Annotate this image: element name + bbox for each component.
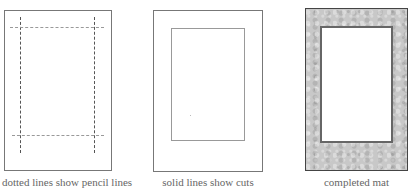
pencil-line-right (94, 17, 95, 153)
pencil-line-left (20, 17, 21, 153)
cut-window-outline (171, 28, 245, 141)
caption-completed: completed mat (305, 176, 408, 188)
pencil-line-bottom (12, 135, 104, 136)
mat-window-opening (320, 26, 393, 143)
pencil-line-top (10, 27, 104, 28)
pencil-mark (190, 115, 191, 116)
caption-pencil-lines: dotted lines show pencil lines (2, 176, 114, 188)
caption-cuts: solid lines show cuts (153, 176, 263, 188)
